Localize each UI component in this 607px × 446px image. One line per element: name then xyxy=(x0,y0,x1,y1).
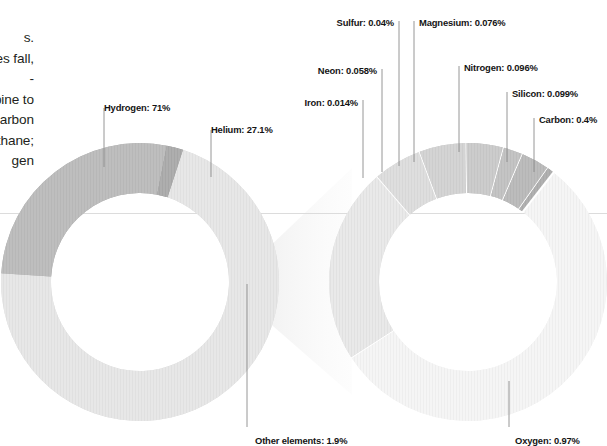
donut-chart-breakdown xyxy=(329,142,607,421)
label-other: Other elements: 1.9% xyxy=(255,435,347,446)
label-iron: Iron: 0.014% xyxy=(305,97,358,108)
label-sulfur: Sulfur: 0.04% xyxy=(337,17,394,28)
donut-chart-main xyxy=(1,143,279,421)
label-oxygen: Oxygen: 0.97% xyxy=(515,435,580,446)
label-helium: Helium: 27.1% xyxy=(211,124,273,135)
label-neon: Neon: 0.058% xyxy=(318,65,377,76)
label-magnesium: Magnesium: 0.076% xyxy=(419,17,506,28)
label-carbon: Carbon: 0.4% xyxy=(539,114,597,125)
label-hydrogen: Hydrogen: 71% xyxy=(104,102,170,113)
label-nitrogen: Nitrogen: 0.096% xyxy=(464,62,538,73)
label-silicon: Silicon: 0.099% xyxy=(512,88,578,99)
donut-slice-helium xyxy=(1,143,167,276)
